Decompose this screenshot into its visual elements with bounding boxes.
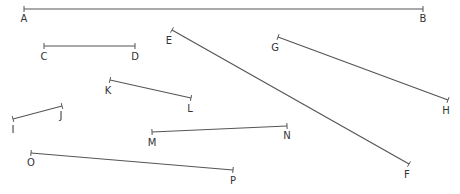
point-label-l: L [187,103,193,114]
segment-ab: AB [21,6,427,24]
point-label-a: A [21,13,28,24]
segment-line [31,153,233,170]
segment-line [278,37,448,100]
point-label-j: J [59,110,63,121]
segment-cd: CD [41,43,140,62]
point-label-p: P [230,175,236,186]
point-label-k: K [105,85,112,96]
point-label-e: E [166,35,172,46]
endpoint-tick [109,77,110,83]
endpoint-tick [233,167,234,173]
segment-line [110,80,191,98]
line-segments-diagram: ABCDEFGHKLIJMNOP [0,0,460,194]
segment-kl: KL [105,77,193,114]
segment-ij: IJ [12,103,63,135]
point-label-n: N [283,130,290,141]
point-label-d: D [131,51,139,62]
endpoint-tick [31,150,32,156]
point-label-g: G [271,42,279,53]
point-label-m: M [148,137,157,148]
point-label-o: O [27,157,35,168]
segment-mn: MN [148,123,291,148]
segment-line [13,106,62,119]
point-label-i: I [12,124,15,135]
segment-gh: GH [271,34,450,116]
segment-line [172,30,409,164]
endpoint-tick [190,95,191,101]
segment-ef: EF [166,27,411,180]
point-label-c: C [41,51,48,62]
point-label-h: H [442,105,450,116]
segment-line [152,126,287,132]
segment-op: OP [27,150,236,186]
point-label-f: F [404,169,410,180]
point-label-b: B [420,13,427,24]
